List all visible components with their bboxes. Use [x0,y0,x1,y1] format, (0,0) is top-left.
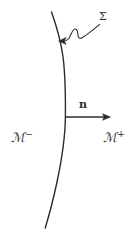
region-minus-label: ℳ− [11,130,33,144]
figure-canvas: Σ n ℳ− ℳ+ [0,0,134,235]
hypersurface-curve [45,12,65,228]
region-plus-superscript: + [117,129,125,139]
diagram-vector-graphics [0,0,134,235]
region-plus-symbol: ℳ [103,130,117,145]
region-plus-label: ℳ+ [103,130,125,144]
sigma-label: Σ [99,11,107,22]
sigma-leader-line [61,25,100,42]
region-minus-symbol: ℳ [11,130,25,145]
normal-vector-label: n [79,99,87,110]
region-minus-superscript: − [25,129,33,139]
